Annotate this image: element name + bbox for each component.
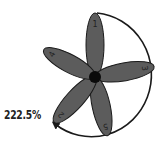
svg-text:1: 1 <box>92 20 97 29</box>
rotation-label: 222.5% <box>4 107 41 122</box>
flower-rotation-diagram: 1 3 5 2 4 222.5% <box>0 0 167 150</box>
flower-center <box>89 71 101 83</box>
diagram-canvas: 1 3 5 2 4 <box>0 0 167 150</box>
